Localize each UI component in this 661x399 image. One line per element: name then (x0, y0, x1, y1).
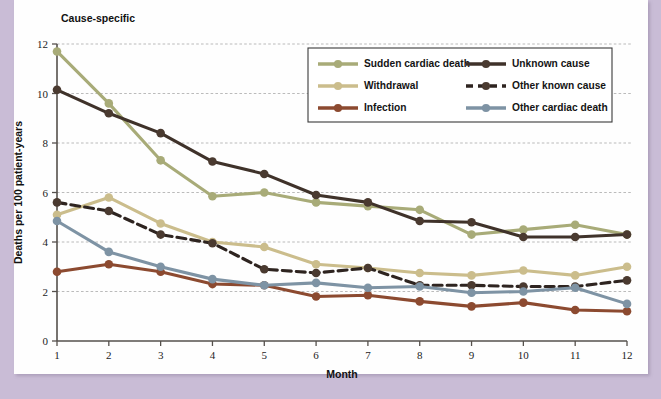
legend-marker-withdrawal (334, 82, 342, 90)
data-point-infection-m10 (519, 298, 528, 307)
chart-legend[interactable]: Sudden cardiac deathWithdrawalInfectionU… (308, 48, 612, 122)
data-point-unknown-cause-m2 (105, 109, 114, 118)
data-point-other-known-cause-m9 (467, 281, 476, 290)
data-point-unknown-cause-m3 (156, 129, 165, 138)
x-tick-label-7: 7 (365, 349, 371, 361)
data-point-other-cardiac-death-m1 (53, 217, 62, 226)
data-point-sudden-cardiac-death-m8 (415, 206, 424, 215)
data-point-unknown-cause-m5 (260, 170, 269, 179)
data-point-other-cardiac-death-m10 (519, 287, 528, 296)
data-point-unknown-cause-m8 (415, 217, 424, 226)
data-point-unknown-cause-m10 (519, 233, 528, 242)
x-tick-label-11: 11 (570, 349, 581, 361)
data-point-unknown-cause-m9 (467, 218, 476, 227)
data-point-sudden-cardiac-death-m3 (156, 156, 165, 165)
x-tick-label-6: 6 (313, 349, 319, 361)
x-tick-label-1: 1 (54, 349, 60, 361)
y-tick-label-6: 6 (43, 187, 49, 199)
y-tick-label-4: 4 (43, 236, 49, 248)
data-point-infection-m8 (415, 297, 424, 306)
data-point-sudden-cardiac-death-m11 (571, 220, 580, 229)
data-point-other-cardiac-death-m9 (467, 288, 476, 297)
data-point-other-cardiac-death-m3 (156, 262, 165, 271)
legend-marker-sudden-cardiac-death (334, 60, 342, 68)
legend-marker-unknown-cause (482, 60, 490, 68)
data-point-infection-m2 (105, 260, 114, 269)
data-point-withdrawal-m10 (519, 266, 528, 275)
data-point-unknown-cause-m6 (312, 191, 321, 200)
data-point-withdrawal-m9 (467, 271, 476, 280)
data-point-withdrawal-m6 (312, 260, 321, 269)
data-point-unknown-cause-m12 (623, 230, 632, 239)
data-point-unknown-cause-m7 (364, 198, 373, 207)
data-point-unknown-cause-m1 (53, 85, 62, 94)
legend-label-other-cardiac-death: Other cardiac death (512, 102, 608, 113)
y-tick-label-10: 10 (37, 88, 49, 100)
data-point-other-known-cause-m7 (364, 264, 373, 273)
data-point-unknown-cause-m4 (208, 157, 217, 166)
legend-label-other-known-cause: Other known cause (512, 80, 606, 91)
data-point-sudden-cardiac-death-m1 (53, 47, 62, 56)
data-point-other-cardiac-death-m2 (105, 248, 114, 257)
data-point-other-cardiac-death-m4 (208, 275, 217, 284)
data-point-other-cardiac-death-m5 (260, 281, 269, 290)
x-tick-label-3: 3 (158, 349, 164, 361)
data-point-other-known-cause-m4 (208, 239, 217, 248)
legend-label-withdrawal: Withdrawal (364, 80, 418, 91)
x-tick-label-2: 2 (106, 349, 112, 361)
figure-root: 024681012123456789101112 MonthDeaths per… (0, 0, 661, 399)
y-tick-label-12: 12 (37, 38, 48, 50)
data-point-withdrawal-m5 (260, 243, 269, 252)
data-point-infection-m1 (53, 267, 62, 276)
legend-marker-infection (334, 104, 342, 112)
legend-marker-other-known-cause (482, 82, 490, 90)
data-point-sudden-cardiac-death-m6 (312, 198, 321, 207)
data-point-other-cardiac-death-m12 (623, 300, 632, 309)
data-point-sudden-cardiac-death-m5 (260, 188, 269, 197)
data-point-withdrawal-m2 (105, 193, 114, 202)
legend-label-infection: Infection (364, 102, 406, 113)
data-point-other-cardiac-death-m8 (415, 282, 424, 291)
data-point-withdrawal-m11 (571, 271, 580, 280)
x-tick-label-9: 9 (469, 349, 475, 361)
data-point-withdrawal-m3 (156, 219, 165, 228)
x-tick-label-8: 8 (417, 349, 423, 361)
y-axis-title: Deaths per 100 patient-years (12, 121, 24, 264)
data-point-other-known-cause-m5 (260, 265, 269, 274)
y-tick-label-8: 8 (43, 137, 49, 149)
x-tick-label-5: 5 (262, 349, 268, 361)
data-point-infection-m11 (571, 306, 580, 315)
data-point-sudden-cardiac-death-m4 (208, 192, 217, 201)
y-tick-label-2: 2 (43, 286, 49, 298)
data-point-sudden-cardiac-death-m2 (105, 99, 114, 108)
legend-label-sudden-cardiac-death: Sudden cardiac death (364, 58, 470, 69)
data-point-other-known-cause-m3 (156, 230, 165, 239)
data-point-infection-m12 (623, 307, 632, 316)
x-tick-label-12: 12 (622, 349, 633, 361)
data-point-infection-m9 (467, 302, 476, 311)
data-point-other-known-cause-m6 (312, 269, 321, 278)
chart-title: Cause-specific (61, 12, 135, 24)
axis-labels-layer: MonthDeaths per 100 patient-yearsCause-s… (12, 12, 358, 380)
legend-marker-other-cardiac-death (482, 104, 490, 112)
data-point-other-cardiac-death-m7 (364, 283, 373, 292)
data-point-other-known-cause-m1 (53, 198, 62, 207)
data-point-withdrawal-m8 (415, 269, 424, 278)
data-point-sudden-cardiac-death-m9 (467, 230, 476, 239)
data-point-other-cardiac-death-m11 (571, 283, 580, 292)
cause-specific-line-chart: 024681012123456789101112 MonthDeaths per… (0, 0, 661, 399)
data-point-sudden-cardiac-death-m10 (519, 225, 528, 234)
data-point-withdrawal-m12 (623, 262, 632, 271)
legend-label-unknown-cause: Unknown cause (512, 58, 590, 69)
x-tick-label-4: 4 (210, 349, 216, 361)
x-tick-label-10: 10 (518, 349, 530, 361)
data-point-infection-m6 (312, 292, 321, 301)
x-axis-title: Month (326, 368, 358, 380)
data-point-unknown-cause-m11 (571, 233, 580, 242)
data-point-other-known-cause-m2 (105, 207, 114, 216)
data-point-infection-m7 (364, 291, 373, 300)
y-tick-label-0: 0 (43, 335, 49, 347)
data-point-other-known-cause-m12 (623, 276, 632, 285)
data-point-other-cardiac-death-m6 (312, 279, 321, 288)
